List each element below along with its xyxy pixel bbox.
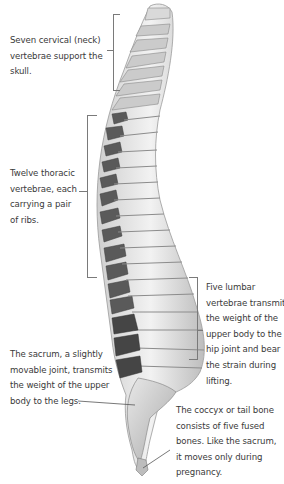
sacrum-label-line: movable joint, transmits (10, 363, 120, 379)
coccyx-label-line: it moves only during (176, 450, 284, 466)
coccyx-label-line: The coccyx or tail bone (176, 403, 284, 419)
cervical-label-line: Seven cervical (neck) (10, 33, 110, 49)
cervical-label-line: vertebrae support the (10, 49, 110, 65)
lumbar-label-line: lifting. (206, 374, 284, 390)
lumbar-label-line: Five lumbar (206, 280, 284, 296)
thoracic-label-line: Twelve thoracic (10, 166, 86, 182)
lumbar-label-line: hip joint and bear (206, 342, 284, 358)
thoracic-label: Twelve thoracic vertebrae, each carrying… (10, 166, 86, 228)
thoracic-label-line: vertebrae, each (10, 182, 86, 198)
coccyx-leader-line (143, 450, 170, 468)
sacrum-label: The sacrum, a slightly movable joint, tr… (10, 347, 120, 409)
lumbar-label-line: the strain during (206, 358, 284, 374)
cervical-label: Seven cervical (neck) vertebrae support … (10, 33, 110, 80)
lumbar-label-line: upper body to the (206, 327, 284, 343)
thoracic-label-line: of ribs. (10, 213, 86, 229)
coccyx-label: The coccyx or tail bone consists of five… (176, 403, 284, 481)
lumbar-label-line: vertebrae transmit (206, 296, 284, 312)
coccyx-label-line: consists of five fused (176, 419, 284, 435)
coccyx-label-line: bones. Like the sacrum, (176, 434, 284, 450)
coccyx-label-line: pregnancy. (176, 465, 284, 481)
sacrum-label-line: the weight of the upper (10, 378, 120, 394)
thoracic-label-line: carrying a pair (10, 197, 86, 213)
sacrum-label-line: The sacrum, a slightly (10, 347, 120, 363)
lumbar-label-line: the weight of the (206, 311, 284, 327)
cervical-label-line: skull. (10, 64, 110, 80)
sacrum-label-line: body to the legs. (10, 394, 120, 410)
lumbar-label: Five lumbar vertebrae transmit the weigh… (206, 280, 284, 389)
